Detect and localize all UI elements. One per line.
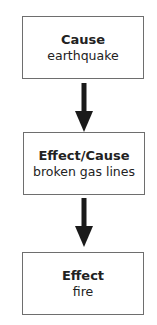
node-effect-cause-title: Effect/Cause xyxy=(38,148,129,164)
arrow-down-icon xyxy=(72,198,96,248)
arrow-down-icon xyxy=(72,83,96,133)
node-cause-text: earthquake xyxy=(47,48,118,64)
node-cause-title: Cause xyxy=(61,32,105,48)
node-effect-title: Effect xyxy=(62,268,104,284)
node-effect: Effect fire xyxy=(22,252,144,315)
node-effect-cause-text: broken gas lines xyxy=(33,164,135,180)
node-effect-text: fire xyxy=(73,284,93,300)
node-cause: Cause earthquake xyxy=(22,16,144,79)
node-effect-cause: Effect/Cause broken gas lines xyxy=(23,132,145,195)
